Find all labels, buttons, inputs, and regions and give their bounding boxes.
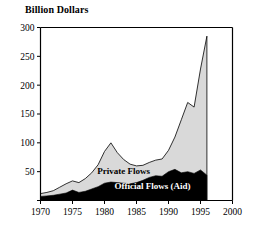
x-tick-label: 1980 [95, 207, 114, 217]
x-tick-label: 1995 [191, 207, 210, 217]
y-tick-label: 50 [25, 167, 35, 177]
series-label: Official Flows (Aid) [115, 181, 191, 191]
chart-canvas: 50100150200250300 1970197519801985199019… [0, 0, 260, 242]
x-tick-label: 1990 [159, 207, 178, 217]
y-tick-label: 150 [20, 109, 35, 119]
series-label: Private Flows [97, 166, 150, 176]
y-tick-label: 300 [20, 23, 35, 33]
x-axis-ticks: 1970197519801985199019952000 [31, 201, 242, 217]
x-tick-label: 1975 [63, 207, 82, 217]
plot-area: 50100150200250300 1970197519801985199019… [20, 23, 242, 217]
y-axis-ticks: 50100150200250300 [20, 23, 40, 201]
chart-figure: Billion Dollars Source: World Bank 50100… [0, 0, 260, 242]
y-tick-label: 200 [20, 81, 35, 91]
x-tick-label: 2000 [223, 207, 242, 217]
x-tick-label: 1985 [127, 207, 146, 217]
y-tick-label: 250 [20, 52, 35, 62]
y-tick-label: 100 [20, 138, 35, 148]
x-tick-label: 1970 [31, 207, 50, 217]
